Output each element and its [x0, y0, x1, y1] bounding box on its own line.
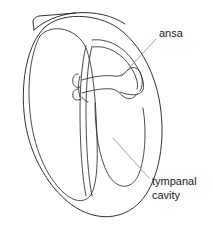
tympanal-cavity-label: tympanal cavity — [152, 175, 200, 201]
ansa-stem-path — [79, 76, 81, 97]
ansa-foot-path — [82, 97, 88, 102]
ansa-band-lower-path — [82, 89, 137, 99]
figure-root: ansa tympanal cavity — [0, 0, 213, 227]
ansa-label: ansa — [159, 27, 184, 39]
top-flap-edge-path — [33, 13, 76, 30]
body-outline-path — [23, 16, 162, 216]
upper-right-chamber-path — [92, 40, 144, 95]
anatomy-diagram: ansa tympanal cavity — [0, 0, 213, 227]
tympanal-cavity-label-line1: tympanal — [152, 175, 197, 187]
median-septum-left-path — [80, 46, 86, 196]
left-lobe-path — [29, 29, 97, 201]
tympanal-cavity-label-line2: cavity — [152, 189, 181, 201]
tympanal-cavity-path — [95, 103, 145, 186]
